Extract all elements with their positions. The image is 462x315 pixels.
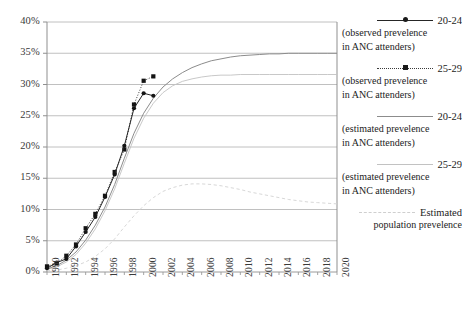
- data-point-marker: [84, 230, 88, 234]
- x-axis-tick-label: 1996: [109, 257, 119, 277]
- x-axis-tick-label: 2016: [302, 257, 312, 277]
- chart-container: 0%5%10%15%20%25%30%35%40% 19901992199419…: [0, 0, 462, 315]
- legend-entry-title: Estimated: [420, 207, 462, 218]
- y-axis-tick-label: 5%: [0, 234, 40, 245]
- data-point-marker: [93, 215, 97, 219]
- legend-entry-description: population prevelence: [342, 219, 462, 232]
- legend-marker-icon: [403, 17, 408, 22]
- legend-entry: 20-24(estimated prevelencein ANC attende…: [342, 110, 462, 149]
- legend-line-swatch: [377, 116, 433, 117]
- legend-entry: 25-29(observed prevelencein ANC attender…: [342, 62, 462, 101]
- legend-entry-description: in ANC attenders): [342, 89, 462, 102]
- legend-line-sample: [377, 111, 433, 122]
- legend-entry: 25-29(estimated prevelencein ANC attende…: [342, 158, 462, 197]
- data-point-marker: [113, 172, 117, 176]
- data-point-marker: [45, 266, 49, 270]
- legend-entry-title: 20-24: [438, 15, 462, 26]
- data-point-marker: [142, 79, 146, 83]
- y-axis-tick-label: 25%: [0, 109, 40, 120]
- y-axis-tick-label: 30%: [0, 78, 40, 89]
- x-axis-tick-label: 1998: [128, 257, 138, 277]
- x-axis-tick-label: 2018: [322, 257, 332, 277]
- y-axis-tick-label: 0%: [0, 265, 40, 276]
- legend-line-sample: [377, 15, 433, 26]
- legend-entry-description: (observed prevelence: [342, 27, 462, 40]
- data-point-marker: [74, 244, 78, 248]
- legend-line-swatch: [359, 212, 415, 213]
- legend-entry-description: (estimated prevelence: [342, 171, 462, 184]
- data-point-marker: [132, 106, 136, 110]
- y-axis-tick-label: 35%: [0, 46, 40, 57]
- data-point-marker: [122, 144, 126, 148]
- x-axis-tick-label: 2002: [167, 257, 177, 277]
- x-axis-tick-label: 2008: [225, 257, 235, 277]
- legend-line-sample: [377, 63, 433, 74]
- x-axis-tick-label: 2010: [244, 257, 254, 277]
- y-axis-tick-label: 10%: [0, 203, 40, 214]
- x-axis-tick-label: 1990: [51, 257, 61, 277]
- legend-entry: 20-24(observed prevelencein ANC attender…: [342, 14, 462, 53]
- data-point-marker: [103, 195, 107, 199]
- series-line-0: [47, 93, 153, 268]
- legend-entry-description: (estimated prevelence: [342, 123, 462, 136]
- x-axis-tick-label: 2004: [186, 257, 196, 277]
- x-axis-tick-label: 2020: [341, 257, 351, 277]
- legend-line-sample: [377, 159, 433, 170]
- legend-line-sample: [359, 207, 415, 218]
- legend-entry-description: in ANC attenders): [342, 41, 462, 54]
- data-point-marker: [64, 257, 68, 261]
- legend-entry: Estimatedpopulation prevelence: [342, 206, 462, 232]
- series-line-3: [47, 75, 337, 270]
- series-line-1: [47, 76, 153, 266]
- x-axis-tick-label: 1994: [90, 257, 100, 277]
- legend-marker-icon: [403, 65, 408, 70]
- chart-legend: 20-24(observed prevelencein ANC attender…: [342, 14, 462, 241]
- y-axis-tick-label: 15%: [0, 171, 40, 182]
- legend-entry-title: 25-29: [438, 63, 462, 74]
- x-axis-tick-label: 1992: [70, 257, 80, 277]
- x-axis-tick-label: 2000: [148, 257, 158, 277]
- legend-entry-description: in ANC attenders): [342, 185, 462, 198]
- legend-entry-title: 25-29: [438, 159, 462, 170]
- data-point-marker: [151, 74, 155, 78]
- x-axis-tick-label: 2014: [283, 257, 293, 277]
- legend-entry-description: (observed prevelence: [342, 75, 462, 88]
- legend-line-swatch: [377, 164, 433, 165]
- x-axis-tick-label: 2012: [264, 257, 274, 277]
- data-point-marker: [151, 94, 155, 98]
- data-point-marker: [142, 91, 146, 95]
- legend-entry-description: in ANC attenders): [342, 137, 462, 150]
- legend-entry-title: 20-24: [438, 111, 462, 122]
- y-axis-tick-label: 20%: [0, 140, 40, 151]
- y-axis-tick-label: 40%: [0, 15, 40, 26]
- x-axis-tick-label: 2006: [206, 257, 216, 277]
